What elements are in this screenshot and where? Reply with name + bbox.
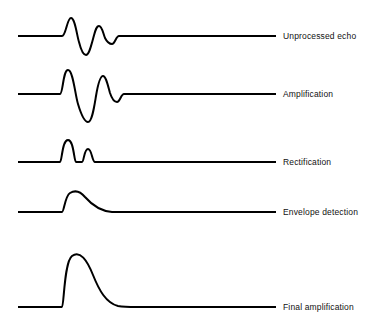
waveform-trace-envelope-detection xyxy=(18,191,276,212)
signal-processing-figure: Unprocessed echo Amplification Rectifica… xyxy=(0,0,379,326)
waveform-trace-amplification xyxy=(18,70,276,122)
stage-label-rectification: Rectification xyxy=(283,158,331,167)
stage-label-unprocessed-echo: Unprocessed echo xyxy=(283,32,356,41)
stage-label-amplification: Amplification xyxy=(283,90,333,99)
waveform-trace-rectification xyxy=(18,140,276,162)
stage-label-final-amplification: Final amplification xyxy=(283,303,354,312)
waveform-trace-unprocessed-echo xyxy=(18,18,276,55)
waveform-trace-final-amplification xyxy=(18,254,276,307)
stage-label-envelope-detection: Envelope detection xyxy=(283,208,358,217)
